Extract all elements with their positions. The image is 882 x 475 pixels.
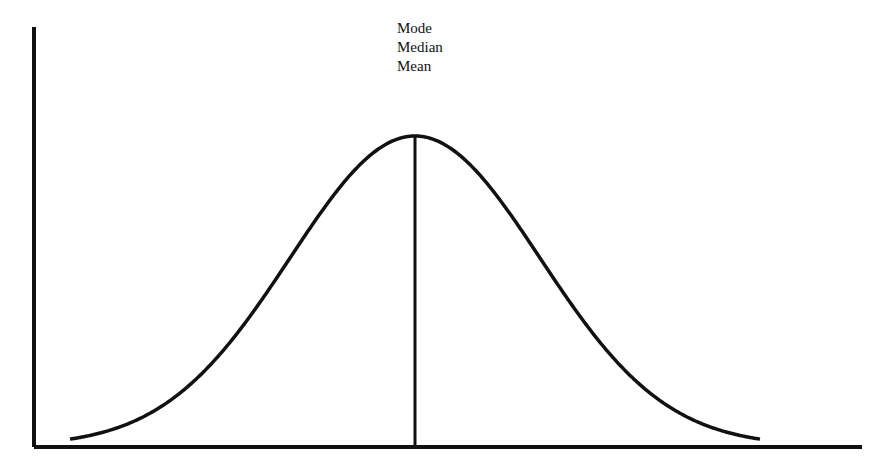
mode-label: Mode [397,19,432,38]
median-label: Median [397,38,443,57]
normal-distribution-chart [0,0,882,475]
mean-label: Mean [397,57,431,76]
